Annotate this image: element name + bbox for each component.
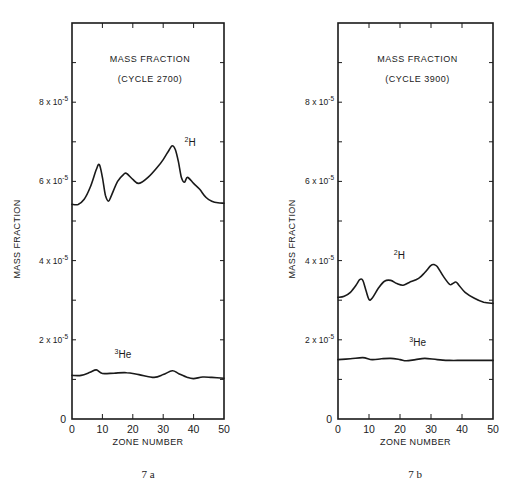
- y-tick-label: 6 x 10-5: [39, 174, 68, 186]
- x-tick-label: 20: [127, 423, 139, 435]
- x-tick-label: 0: [69, 423, 75, 435]
- series-line-he3: [338, 358, 493, 361]
- y-tick-label: 0: [326, 413, 332, 425]
- y-tick-label: 0: [60, 413, 66, 425]
- y-tick-label: 4 x 10-5: [39, 254, 68, 266]
- chart-title: MASS FRACTION: [377, 54, 458, 64]
- x-tick-label: 0: [335, 423, 341, 435]
- x-tick-label: 10: [363, 423, 375, 435]
- y-tick-label: 6 x 10-5: [305, 174, 334, 186]
- series-annotation: 2H: [184, 136, 195, 148]
- x-tick-label: 30: [157, 423, 169, 435]
- series-annotation: 3He: [115, 348, 132, 360]
- y-tick-label: 2 x 10-5: [305, 333, 334, 345]
- series-annotation: 3He: [409, 336, 426, 348]
- x-tick-label: 50: [218, 423, 230, 435]
- y-tick-label: 2 x 10-5: [39, 333, 68, 345]
- y-tick-label: 4 x 10-5: [305, 254, 334, 266]
- x-tick-label: 30: [425, 423, 437, 435]
- series-line-h2: [338, 264, 493, 303]
- x-tick-label: 10: [97, 423, 109, 435]
- x-tick-label: 40: [456, 423, 468, 435]
- chart-subtitle: (CYCLE 2700): [118, 74, 183, 84]
- y-axis-label: MASS FRACTION: [287, 199, 297, 278]
- series-annotation: 2H: [394, 249, 405, 261]
- chart-panel-7b: 0102030405002 x 10-54 x 10-56 x 10-58 x …: [287, 23, 499, 480]
- series-line-he3: [72, 370, 224, 379]
- chart-title: MASS FRACTION: [110, 54, 191, 64]
- panel-caption: 7 a: [141, 468, 154, 480]
- chart-subtitle: (CYCLE 3900): [385, 74, 450, 84]
- x-tick-label: 40: [188, 423, 200, 435]
- x-tick-label: 50: [487, 423, 499, 435]
- y-tick-label: 8 x 10-5: [39, 95, 68, 107]
- figure-canvas: 0102030405002 x 10-54 x 10-56 x 10-58 x …: [0, 0, 512, 491]
- y-tick-label: 8 x 10-5: [305, 95, 334, 107]
- x-tick-label: 20: [394, 423, 406, 435]
- x-axis-label: ZONE NUMBER: [380, 437, 451, 447]
- x-axis-label: ZONE NUMBER: [113, 437, 184, 447]
- panel-caption: 7 b: [408, 468, 422, 480]
- series-line-h2: [72, 146, 224, 205]
- y-axis-label: MASS FRACTION: [12, 199, 22, 278]
- chart-panel-7a: 0102030405002 x 10-54 x 10-56 x 10-58 x …: [12, 23, 230, 480]
